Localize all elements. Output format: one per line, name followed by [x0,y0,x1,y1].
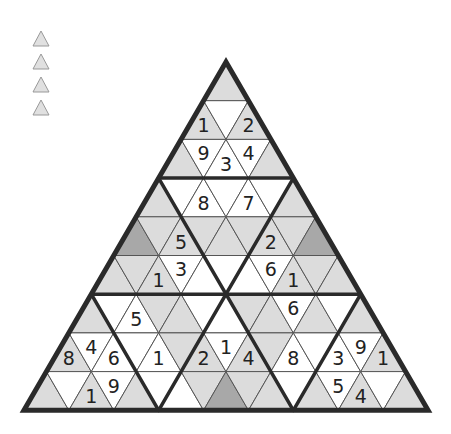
cell-value: 1 [153,347,165,369]
cell-value: 4 [355,385,367,407]
cell-value: 1 [198,114,210,136]
puzzle-board: 129348752136156846121483911954 [0,0,451,434]
cell-value: 9 [355,336,367,358]
cell-value: 2 [265,231,277,253]
cell-value: 5 [130,308,142,330]
cell-value: 1 [287,269,299,291]
cell-value: 4 [242,347,254,369]
cell-r0c0[interactable] [204,62,249,101]
cell-value: 4 [85,336,97,358]
cell-value: 5 [175,231,187,253]
cell-value: 8 [287,347,299,369]
cell-value: 5 [332,375,344,397]
cell-value: 3 [220,153,232,175]
cell-value: 9 [198,142,210,164]
cell-value: 3 [175,258,187,280]
cell-value: 7 [242,192,254,214]
cell-value: 1 [377,347,389,369]
cell-value: 3 [332,347,344,369]
cell-value: 6 [287,297,299,319]
cell-value: 6 [108,347,120,369]
cell-value: 9 [108,375,120,397]
cell-value: 2 [242,114,254,136]
cell-value: 8 [198,192,210,214]
cell-value: 6 [265,258,277,280]
cell-value: 8 [63,347,75,369]
cell-value: 2 [198,347,210,369]
cell-value: 1 [153,269,165,291]
cell-value: 4 [242,142,254,164]
cell-value: 1 [220,336,232,358]
cell-value: 1 [85,385,97,407]
